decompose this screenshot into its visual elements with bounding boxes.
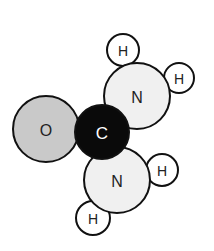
- atom-label: N: [111, 173, 123, 190]
- atom-label: H: [157, 163, 167, 179]
- atom-h1: H: [107, 34, 139, 66]
- atom-label: C: [96, 124, 108, 143]
- atom-label: H: [174, 71, 184, 87]
- atom-label: N: [131, 89, 143, 106]
- urea-molecule-diagram: HHHHONNC: [0, 0, 214, 251]
- atom-c: C: [75, 105, 129, 159]
- atom-label: H: [118, 43, 128, 59]
- atom-label: O: [40, 122, 52, 139]
- atom-o: O: [13, 96, 79, 162]
- atom-label: H: [88, 211, 98, 227]
